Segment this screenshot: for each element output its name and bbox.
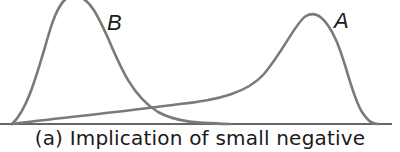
curve-a [12, 14, 378, 124]
figure-caption: (a) Implication of small negative [0, 126, 400, 150]
curve-label-a: A [332, 8, 349, 33]
curve-label-b: B [107, 10, 122, 35]
